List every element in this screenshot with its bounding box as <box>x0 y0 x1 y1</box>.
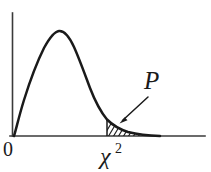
tail-pointer-arrowhead <box>120 117 128 123</box>
tail-area-hatching <box>100 112 173 142</box>
origin-label: 0 <box>3 138 13 160</box>
chi-square-figure-container: P χ 2 0 <box>0 0 211 172</box>
critical-value-label: χ <box>98 143 112 169</box>
critical-value-exponent: 2 <box>115 141 122 156</box>
chi-square-distribution-figure: P χ 2 0 <box>0 0 211 172</box>
tail-pointer-line <box>123 97 149 121</box>
chi-square-density-curve <box>14 31 160 136</box>
tail-area-label: P <box>143 67 159 94</box>
